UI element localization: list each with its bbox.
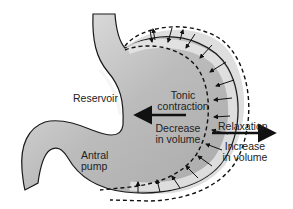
tonic-contraction-label: Tonic contraction [148,90,218,112]
decrease-line2: in volume [146,134,210,145]
decrease-volume-label: Decrease in volume [146,123,210,145]
increase-line2: in volume [214,152,276,163]
antral-line2: pump [81,161,108,172]
relaxation-label: Relaxation [218,121,268,132]
tonic-line2: contraction [148,101,218,112]
stomach-illustration [0,0,293,209]
increase-volume-label: Increase in volume [214,141,276,163]
stomach-diagram: Reservoir Tonic contraction Decrease in … [0,0,293,209]
reservoir-label: Reservoir [73,93,118,104]
antral-pump-label: Antral pump [81,150,108,172]
